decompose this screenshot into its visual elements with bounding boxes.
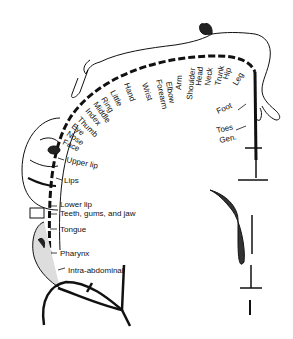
label-group: Leg Hip Trunk Neck Head Shoulder Arm Elb… — [60, 64, 245, 275]
label-leg: Leg — [231, 71, 245, 87]
tongue-figure — [30, 208, 60, 288]
label-teeth: Teeth, gums, and jaw — [60, 209, 136, 218]
label-lower-lip: Lower lip — [60, 200, 93, 209]
label-foot: Foot — [215, 101, 234, 116]
label-upper-lip: Upper lip — [66, 155, 100, 171]
label-gen: Gen. — [219, 133, 238, 145]
label-pharynx: Pharynx — [60, 249, 89, 258]
homunculus-diagram: Leg Hip Trunk Neck Head Shoulder Arm Elb… — [0, 0, 293, 339]
label-tongue: Tongue — [60, 225, 87, 234]
label-shoulder: Shoulder — [185, 67, 197, 100]
label-hand: Hand — [122, 82, 137, 103]
label-arm: Arm — [174, 75, 184, 91]
label-lips: Lips — [64, 176, 79, 185]
label-wrist: Wrist — [140, 82, 154, 103]
label-intra-abdominal: Intra-abdominal — [68, 266, 124, 275]
right-structures — [210, 125, 268, 315]
